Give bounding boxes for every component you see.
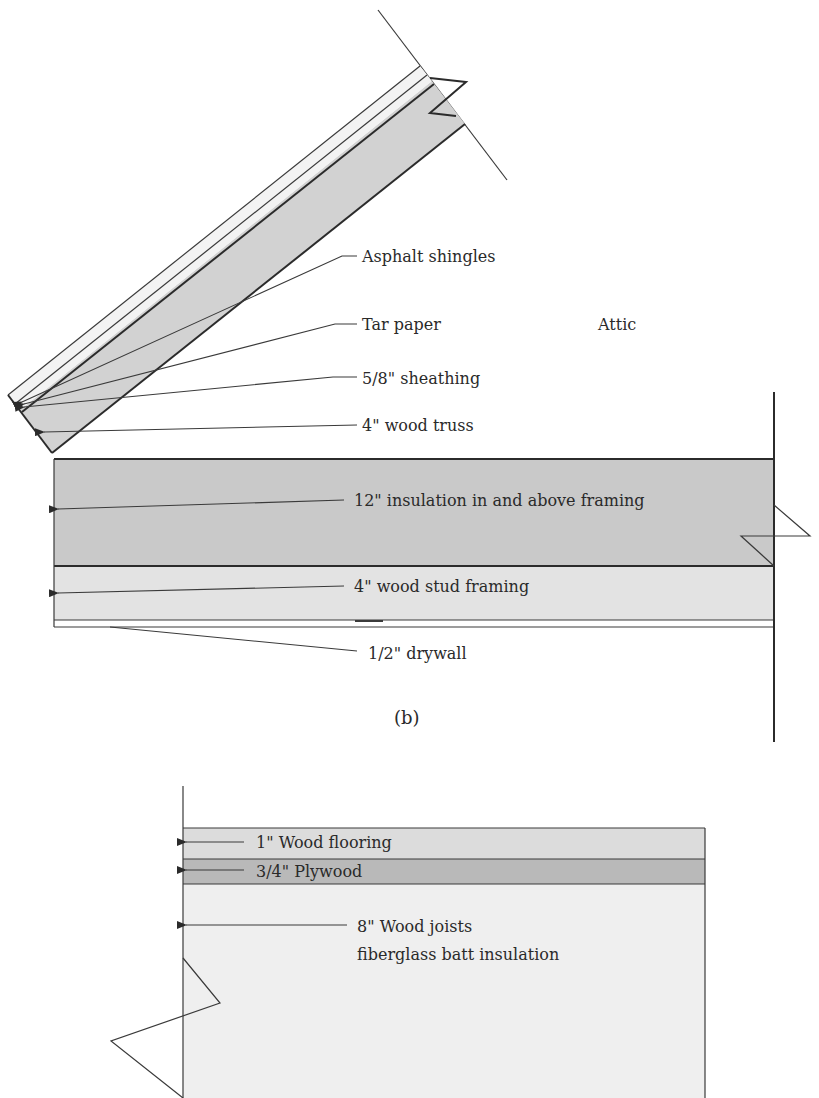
label-stud-framing: 4" wood stud framing — [354, 577, 529, 596]
roof-truss-layer — [20, 81, 465, 453]
label-wood-flooring: 1" Wood flooring — [256, 833, 392, 852]
figure-caption: (b) — [394, 707, 420, 728]
roof-tar-paper-line — [15, 75, 427, 404]
insulation-layer — [54, 459, 774, 566]
floor-assembly: 1" Wood flooring 3/4" Plywood 8" Wood jo… — [111, 786, 705, 1098]
label-plywood: 3/4" Plywood — [256, 862, 362, 881]
label-tar-paper: Tar paper — [362, 315, 441, 334]
roof-outer-edge — [8, 66, 420, 395]
building-assembly-diagram: Asphalt shingles Tar paper 5/8" sheathin… — [0, 0, 819, 1098]
leader-wood-truss — [44, 425, 357, 432]
attic-label: Attic — [597, 315, 636, 334]
roof-inner-edge — [52, 124, 465, 453]
drywall-layer — [54, 620, 774, 627]
label-wood-joists: 8" Wood joists — [357, 917, 472, 936]
label-sheathing: 5/8" sheathing — [362, 369, 480, 388]
label-insulation: 12" insulation in and above framing — [354, 491, 645, 510]
label-wood-truss: 4" wood truss — [362, 416, 474, 435]
label-drywall: 1/2" drywall — [368, 644, 467, 663]
leader-drywall — [110, 627, 357, 651]
ceiling-assembly: 12" insulation in and above framing 4" w… — [54, 392, 810, 742]
roof-assembly: Asphalt shingles Tar paper 5/8" sheathin… — [8, 10, 507, 453]
label-fiberglass-batt: fiberglass batt insulation — [357, 945, 559, 964]
label-asphalt-shingles: Asphalt shingles — [361, 247, 495, 266]
